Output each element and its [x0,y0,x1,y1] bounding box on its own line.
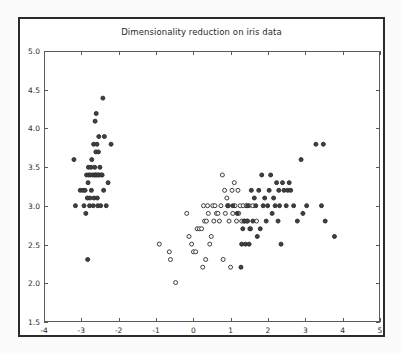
y-tick-mark-right [376,283,380,284]
chart-title: Dimensionality reduction on iris data [20,27,383,37]
scatter-point [83,188,87,192]
scatter-point [279,242,283,246]
scatter-point [255,234,259,238]
y-tick-mark [44,167,48,168]
scatter-point [187,234,191,238]
scatter-point [305,204,309,208]
scatter-point [95,142,99,146]
scatter-point [201,265,205,269]
x-tick-mark [380,318,381,322]
scatter-point [82,204,86,208]
scatter-point [270,211,274,215]
y-tick-label: 3.5 [20,163,40,172]
scatter-point [257,188,261,192]
scatter-point [109,142,113,146]
x-tick-label: 4 [340,326,345,335]
scatter-point [96,150,100,154]
scatter-point [273,204,277,208]
x-tick-label: -4 [40,326,47,335]
scatter-point [232,181,236,185]
y-tick-mark [44,322,48,323]
scatter-point [168,258,172,262]
x-tick-mark [156,318,157,322]
scatter-point [248,227,252,231]
scatter-point [295,219,299,223]
scatter-point [221,258,225,262]
x-tick-mark [193,318,194,322]
x-tick-label: 3 [303,326,308,335]
x-tick-mark [44,318,45,322]
scatter-point [213,204,217,208]
y-tick-mark [44,206,48,207]
scatter-point [204,258,208,262]
x-tick-label: -3 [78,326,85,335]
scatter-point [216,211,220,215]
scatter-point [93,119,97,123]
x-tick-mark [231,318,232,322]
scatter-point [84,211,88,215]
x-tick-mark [81,318,82,322]
scatter-point [276,219,280,223]
scatter-point [88,196,92,200]
x-tick-mark-top [156,51,157,55]
scatter-point [90,158,94,162]
scatter-point [106,181,110,185]
scatter-point [72,158,76,162]
x-tick-mark-top [343,51,344,55]
x-tick-mark-top [193,51,194,55]
scatter-point [278,204,282,208]
scatter-point [73,204,77,208]
scatter-point [301,211,305,215]
x-tick-mark-top [44,51,45,55]
x-tick-mark-top [119,51,120,55]
scatter-point [275,181,279,185]
scatter-point [235,211,239,215]
scatter-point [91,204,95,208]
y-tick-mark-right [376,90,380,91]
x-tick-label: -1 [152,326,159,335]
scatter-point [260,173,264,177]
scatter-point [167,250,171,254]
scatter-point [281,181,285,185]
scatter-point [254,204,258,208]
scatter-point [97,135,101,139]
y-tick-mark [44,90,48,91]
scatter-point [249,188,253,192]
scatter-point [332,234,336,238]
scatter-point [229,265,233,269]
scatter-point [247,242,251,246]
scatter-point [98,165,102,169]
scatter-point [206,204,210,208]
scatter-point [299,158,303,162]
scatter-point [219,204,223,208]
x-tick-mark-top [231,51,232,55]
scatter-point [252,196,256,200]
x-tick-mark-top [380,51,381,55]
scatter-point [99,204,103,208]
scatter-point [284,204,288,208]
y-tick-mark [44,128,48,129]
scatter-point [267,188,271,192]
y-tick-label: 4.0 [20,124,40,133]
y-tick-label: 4.5 [20,85,40,94]
scatter-point [104,204,108,208]
plot-area [44,51,380,322]
scatter-point [287,181,291,185]
y-tick-label: 2.5 [20,240,40,249]
scatter-point [239,265,243,269]
scatter-point [269,173,273,177]
scatter-point [263,196,267,200]
scatter-point [258,227,262,231]
y-tick-label: 1.5 [20,318,40,327]
scatter-point [93,165,97,169]
scatter-point [201,204,205,208]
scatter-point [225,196,229,200]
scatter-point [231,211,235,215]
scatter-point [241,227,245,231]
y-tick-label: 2.0 [20,279,40,288]
scatter-point [227,219,231,223]
scatter-point [174,281,178,285]
scatter-point [95,196,99,200]
x-tick-mark-top [268,51,269,55]
x-tick-mark [305,318,306,322]
